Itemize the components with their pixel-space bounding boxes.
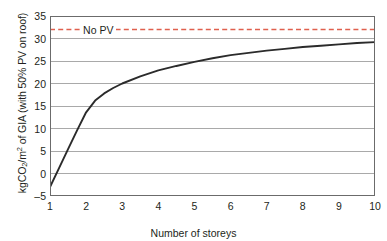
x-axis-label: Number of storeys bbox=[0, 227, 387, 239]
plot-svg bbox=[50, 16, 375, 196]
y-tick-label: 5 bbox=[40, 145, 46, 157]
x-tick-label: 8 bbox=[300, 200, 306, 212]
x-tick-label: 9 bbox=[336, 200, 342, 212]
gridlines bbox=[50, 16, 375, 196]
y-tick-label: 35 bbox=[34, 10, 46, 22]
y-tick-label: 30 bbox=[34, 33, 46, 45]
x-tick-label: 4 bbox=[155, 200, 161, 212]
x-tick-label: 2 bbox=[83, 200, 89, 212]
x-tick-label: 7 bbox=[264, 200, 270, 212]
y-tick-label: 20 bbox=[34, 78, 46, 90]
y-axis-label: kgCO2/m2 of GIA (with 50% PV on roof) bbox=[15, 3, 29, 203]
y-tick-label: 0 bbox=[40, 168, 46, 180]
y-tick-label: –5 bbox=[34, 190, 46, 202]
chart-figure: kgCO2/m2 of GIA (with 50% PV on roof) 35… bbox=[0, 0, 387, 241]
plot-area: 35302520151050–5 12345678910 No PV bbox=[50, 16, 375, 196]
y-axis-label-sup: 2 bbox=[15, 147, 24, 151]
y-axis-label-prefix: kgCO bbox=[16, 167, 28, 193]
y-axis-label-suffix: of GIA (with 50% PV on roof) bbox=[16, 13, 28, 147]
y-axis-label-mid: /m bbox=[16, 151, 28, 162]
x-tick-label: 5 bbox=[192, 200, 198, 212]
legend-label-no-pv: No PV bbox=[80, 24, 116, 36]
y-tick-label: 15 bbox=[34, 100, 46, 112]
x-tick-label: 6 bbox=[228, 200, 234, 212]
y-axis-label-sub: 2 bbox=[20, 163, 29, 167]
pv-curve-line bbox=[50, 42, 375, 187]
y-tick-label: 25 bbox=[34, 55, 46, 67]
x-tick-label: 1 bbox=[47, 200, 53, 212]
y-tick-label: 10 bbox=[34, 123, 46, 135]
x-tick-label: 3 bbox=[119, 200, 125, 212]
x-tick-label: 10 bbox=[369, 200, 381, 212]
